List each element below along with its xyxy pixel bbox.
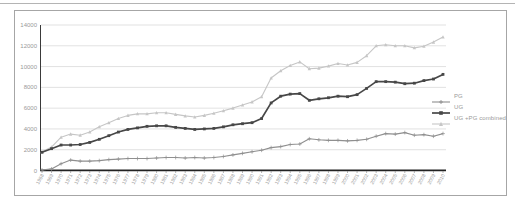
x-tick-label: 1979: [139, 172, 150, 185]
data-point-marker: [41, 151, 44, 154]
data-point-marker: [222, 125, 225, 128]
data-point-marker: [50, 147, 53, 150]
chart-legend: PG UG UG +PG combined: [431, 91, 506, 124]
data-point-marker: [279, 145, 283, 149]
data-point-marker: [442, 73, 445, 76]
data-point-marker: [136, 157, 140, 161]
x-tick-label: 1986: [206, 172, 217, 185]
x-tick-label: 2001: [349, 172, 360, 185]
data-point-marker: [69, 158, 73, 162]
data-point-marker: [212, 156, 216, 160]
x-tick-label: 2010: [435, 172, 446, 185]
x-tick-label: 2005: [388, 172, 399, 185]
data-point-marker: [241, 122, 244, 125]
data-point-marker: [412, 133, 416, 137]
legend-label-pg: PG: [454, 93, 463, 99]
data-point-marker: [403, 82, 406, 85]
x-tick-label: 1992: [264, 172, 275, 185]
x-tick-label: 1973: [82, 172, 93, 185]
x-tick-label: 1996: [302, 172, 313, 185]
data-point-marker: [365, 87, 368, 90]
legend-item-pg: PG: [431, 91, 506, 101]
x-tick-label: 1974: [92, 172, 103, 185]
y-tick-label: 12000: [20, 43, 37, 49]
data-point-marker: [298, 60, 301, 63]
data-point-marker: [59, 162, 63, 166]
data-point-marker: [184, 127, 187, 130]
data-point-marker: [203, 128, 206, 131]
data-point-marker: [403, 131, 407, 135]
legend-item-ug: UG: [431, 102, 506, 112]
data-point-marker: [98, 138, 101, 141]
data-point-marker: [270, 102, 273, 105]
data-point-marker: [260, 148, 264, 152]
x-tick-label: 1988: [225, 172, 236, 185]
x-tick-label: 1975: [101, 172, 112, 185]
x-tick-label: 2009: [426, 172, 437, 185]
data-point-marker: [116, 157, 120, 161]
ug-line-marker-icon: [431, 103, 451, 111]
data-point-marker: [317, 97, 320, 100]
x-tick-label: 1991: [254, 172, 265, 185]
data-point-marker: [155, 124, 158, 127]
x-tick-label: 1999: [330, 172, 341, 185]
data-point-marker: [88, 159, 92, 163]
x-tick-label: 1978: [130, 172, 141, 185]
x-tick-label: 1981: [158, 172, 169, 185]
legend-item-ug-pg-combined: UG +PG combined: [431, 113, 506, 123]
x-tick-label: 1993: [273, 172, 284, 185]
x-tick-label: 2004: [378, 172, 389, 185]
data-point-marker: [327, 138, 331, 142]
data-point-marker: [422, 133, 426, 137]
data-point-marker: [193, 128, 196, 131]
data-point-marker: [251, 121, 254, 124]
data-point-marker: [393, 132, 397, 136]
data-point-marker: [432, 78, 435, 81]
data-point-marker: [231, 153, 235, 157]
ug-pg-combined-line-marker-icon: [431, 114, 451, 122]
data-point-marker: [107, 158, 111, 162]
data-point-marker: [317, 138, 321, 142]
data-point-marker: [288, 143, 292, 147]
y-tick-label: 14000: [20, 22, 37, 28]
data-point-marker: [241, 151, 245, 155]
data-point-marker: [250, 150, 254, 154]
data-point-marker: [336, 138, 340, 142]
y-tick-label: 6000: [24, 105, 38, 111]
x-tick-label: 1977: [120, 172, 131, 185]
data-point-marker: [174, 156, 178, 160]
data-point-marker: [346, 139, 350, 143]
data-point-marker: [155, 156, 159, 160]
x-tick-label: 1972: [73, 172, 84, 185]
x-tick-label: 1982: [168, 172, 179, 185]
legend-label-ug-pg-combined: UG +PG combined: [454, 115, 506, 121]
data-point-marker: [346, 95, 349, 98]
x-tick-label: 2000: [340, 172, 351, 185]
x-tick-label: 1968: [34, 172, 45, 185]
legend-label-ug: UG: [454, 104, 463, 110]
y-tick-label: 4000: [24, 126, 38, 132]
y-tick-label: 0: [34, 168, 38, 174]
data-point-marker: [69, 144, 72, 147]
x-tick-label: 1987: [216, 172, 227, 185]
x-tick-label: 1990: [244, 172, 255, 185]
x-tick-label: 1997: [311, 172, 322, 185]
x-tick-label: 1969: [44, 172, 55, 185]
data-point-marker: [107, 134, 110, 137]
data-point-marker: [327, 96, 330, 99]
data-point-marker: [432, 134, 436, 138]
x-tick-label: 1984: [187, 172, 198, 185]
data-point-marker: [441, 35, 444, 38]
data-point-marker: [126, 157, 130, 161]
data-point-marker: [355, 138, 359, 142]
x-tick-label: 1994: [283, 172, 294, 185]
data-point-marker: [88, 141, 91, 144]
data-point-marker: [145, 157, 149, 161]
data-point-marker: [202, 156, 206, 160]
data-point-marker: [97, 159, 101, 163]
pg-line-marker-icon: [431, 92, 451, 100]
data-point-marker: [127, 128, 130, 131]
data-point-marker: [164, 156, 168, 160]
x-tick-label: 1970: [53, 172, 64, 185]
data-point-marker: [60, 144, 63, 147]
